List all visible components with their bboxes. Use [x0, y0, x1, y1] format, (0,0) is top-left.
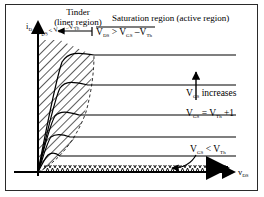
figure-canvas: Tinder (liner region) Saturation region …: [0, 0, 264, 197]
x-axis-label: vDS: [238, 168, 249, 177]
saturation-condition-label: VDS > VGS –VTh: [96, 28, 152, 38]
y-axis-label: iD: [26, 22, 32, 31]
triode-title-line1: Tinder: [66, 7, 90, 17]
vgs-increases-label: VGS increases: [186, 89, 236, 99]
vgs-equals-vth-plus-one-label: VGS = VTh +1: [186, 109, 234, 119]
triode-region-hatch: [38, 40, 94, 172]
cutoff-region-band: [44, 165, 226, 171]
vgs-less-than-vth-label: VGS < VTh: [190, 145, 226, 155]
saturation-region-title: Saturation region (active region): [112, 14, 229, 23]
